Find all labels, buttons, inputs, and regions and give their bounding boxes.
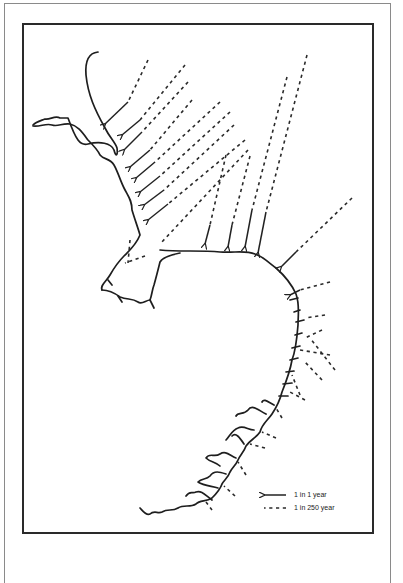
arrows-1-in-250-year [125,55,352,510]
coastline [33,52,304,514]
legend-label-250-year: 1 in 250 year [294,504,335,512]
legend-label-1-year: 1 in 1 year [294,491,327,499]
legend: 1 in 1 year 1 in 250 year [264,491,335,512]
arrows-1-in-1-year [105,102,300,295]
